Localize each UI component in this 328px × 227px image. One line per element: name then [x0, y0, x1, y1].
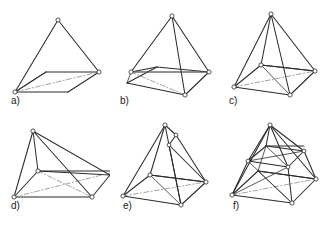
- vertex-base-back: [259, 63, 263, 67]
- base-edge-right: [68, 72, 99, 92]
- vertex-base-left: [129, 70, 133, 74]
- lateral-edge-apex-left: [15, 20, 58, 92]
- base-edge-left: [123, 175, 150, 196]
- base-edge-back: [38, 171, 110, 175]
- panel-c: c): [218, 0, 328, 113]
- vertex-base-right: [207, 70, 211, 74]
- base-edge-right: [181, 182, 206, 205]
- base-diagonal-hidden-2: [38, 171, 92, 197]
- base-edge-right: [290, 71, 315, 95]
- panel-f: f): [218, 113, 328, 226]
- vertex-base-front: [90, 195, 94, 199]
- base-edge-right: [92, 175, 110, 197]
- brace-front: [288, 167, 292, 203]
- lateral-edge-apex-right: [33, 131, 110, 175]
- base-edge-left: [232, 171, 258, 195]
- vertex-apex: [268, 123, 272, 127]
- flap-edge-inner-drop: [169, 145, 181, 205]
- panel-label-f: f): [233, 201, 239, 211]
- panel-d: d): [0, 113, 110, 226]
- flap-edge-outer: [176, 135, 206, 182]
- base-diagonal-2: [261, 65, 290, 95]
- vertex-base-right: [313, 69, 317, 73]
- panel-e: e): [109, 113, 219, 226]
- vertex-base-right: [204, 180, 208, 184]
- base-edge-front: [127, 83, 185, 95]
- lateral-edge-apex-back: [261, 14, 271, 65]
- rim-edge-span: [261, 65, 315, 71]
- lateral-edge-apex-right: [58, 20, 99, 72]
- vertex-inner-left: [246, 159, 250, 163]
- panel-label-d: d): [11, 201, 20, 211]
- vertex-inner-front: [286, 165, 290, 169]
- base-diagonal-hidden-2: [131, 72, 185, 95]
- panel-a: a): [0, 0, 110, 113]
- vertex-base-left: [121, 194, 125, 198]
- vertex-base-left: [12, 195, 16, 199]
- vertex-base-front: [288, 93, 292, 97]
- lateral-edge-apex-front: [172, 16, 185, 95]
- vertex-base-front: [290, 201, 294, 205]
- panel-label-c: c): [229, 96, 237, 106]
- lateral-edge-apex-left: [131, 16, 172, 72]
- lateral-edge-apex-back: [150, 125, 165, 175]
- panel-label-b: b): [120, 96, 129, 106]
- panel-b: b): [109, 0, 219, 113]
- apex-edge-outer-right: [270, 125, 316, 179]
- vertex-base-right: [314, 177, 318, 181]
- base-diagonal-hidden-1: [232, 179, 316, 195]
- figure-root: a) b): [0, 0, 328, 227]
- vertex-apex: [31, 129, 35, 133]
- vertex-apex: [56, 18, 60, 22]
- inner-edge-front: [248, 161, 288, 167]
- lateral-edge-helper: [15, 72, 46, 92]
- vertex-flap-outer: [174, 133, 178, 137]
- base-edge-front: [234, 87, 290, 95]
- base-edge-right: [185, 72, 209, 95]
- vertex-base-left: [230, 193, 234, 197]
- rim-edge-span: [150, 175, 206, 182]
- vertex-base-left: [232, 85, 236, 89]
- vertex-base-right: [97, 70, 101, 74]
- vertex-inner-right: [302, 149, 306, 153]
- brace-right: [304, 151, 316, 179]
- vertex-base-left: [13, 90, 17, 94]
- vertex-apex: [170, 14, 174, 18]
- lateral-edge-apex-left: [123, 125, 165, 196]
- base-edge-left: [234, 65, 261, 87]
- vertex-base-front: [183, 93, 187, 97]
- vertex-apex: [163, 123, 167, 127]
- base-edge-front: [232, 195, 292, 203]
- panel-label-a: a): [11, 96, 20, 106]
- panel-label-e: e): [123, 201, 132, 211]
- vertex-base-front: [179, 203, 183, 207]
- lateral-edge-apex-left: [234, 14, 271, 87]
- vertex-base-back: [36, 169, 40, 173]
- flap-edge-lower: [169, 145, 206, 182]
- vertex-flap-fold: [167, 143, 171, 147]
- base-diagonal-hidden: [15, 72, 99, 92]
- lateral-edge-apex-front: [33, 131, 92, 197]
- vertex-base-back: [148, 173, 152, 177]
- lateral-edge-apex-back: [33, 131, 38, 171]
- base-edge-back: [157, 67, 209, 72]
- lateral-edge-apex-right: [172, 16, 209, 72]
- vertex-apex: [269, 12, 273, 16]
- apex-edge-outer-left: [232, 125, 270, 195]
- cross-brace-1: [248, 161, 292, 203]
